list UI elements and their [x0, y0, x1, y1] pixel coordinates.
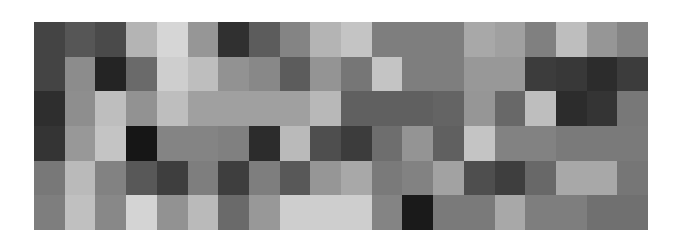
heatmap-cell: [341, 22, 372, 57]
heatmap-cell: [617, 195, 648, 230]
heatmap-cell: [525, 195, 556, 230]
heatmap-cell: [525, 126, 556, 161]
heatmap-cell: [95, 126, 126, 161]
heatmap-cell: [157, 126, 188, 161]
heatmap-cell: [65, 195, 96, 230]
heatmap-cell: [280, 57, 311, 92]
heatmap-cell: [126, 126, 157, 161]
heatmap-cell: [433, 22, 464, 57]
heatmap-cell: [188, 91, 219, 126]
heatmap-cell: [341, 91, 372, 126]
heatmap-cell: [310, 22, 341, 57]
heatmap-cell: [372, 126, 403, 161]
heatmap-figure: [0, 0, 681, 249]
heatmap-cell: [218, 126, 249, 161]
heatmap-cell: [556, 22, 587, 57]
heatmap-cell: [280, 195, 311, 230]
heatmap-cell: [556, 91, 587, 126]
heatmap-cell: [95, 57, 126, 92]
heatmap-cell: [34, 22, 65, 57]
heatmap-cell: [402, 195, 433, 230]
heatmap-cell: [617, 91, 648, 126]
heatmap-cell: [525, 57, 556, 92]
heatmap-cell: [402, 91, 433, 126]
heatmap-cell: [310, 161, 341, 196]
heatmap-cell: [433, 91, 464, 126]
heatmap-cell: [249, 91, 280, 126]
heatmap-cell: [402, 161, 433, 196]
heatmap-cell: [525, 22, 556, 57]
heatmap-cell: [249, 57, 280, 92]
heatmap-cell: [402, 57, 433, 92]
heatmap-cell: [310, 195, 341, 230]
heatmap-cell: [495, 57, 526, 92]
heatmap-cell: [126, 161, 157, 196]
heatmap-cell: [464, 161, 495, 196]
heatmap-cell: [587, 22, 618, 57]
heatmap-cell: [372, 91, 403, 126]
heatmap-cell: [157, 22, 188, 57]
heatmap-cell: [464, 57, 495, 92]
heatmap-cell: [495, 126, 526, 161]
heatmap-cell: [556, 57, 587, 92]
heatmap-cell: [310, 57, 341, 92]
heatmap-cell: [372, 195, 403, 230]
heatmap-cell: [402, 22, 433, 57]
heatmap-cell: [341, 161, 372, 196]
heatmap-cell: [95, 91, 126, 126]
heatmap-cell: [310, 126, 341, 161]
heatmap-cell: [495, 195, 526, 230]
heatmap-cell: [188, 22, 219, 57]
heatmap-cell: [249, 22, 280, 57]
heatmap-cell: [310, 91, 341, 126]
heatmap-cell: [341, 57, 372, 92]
heatmap-cell: [34, 195, 65, 230]
heatmap-cell: [556, 195, 587, 230]
heatmap-cell: [157, 195, 188, 230]
heatmap-cell: [126, 57, 157, 92]
heatmap-cell: [433, 126, 464, 161]
heatmap-cell: [188, 57, 219, 92]
heatmap-cell: [218, 57, 249, 92]
heatmap-cell: [249, 161, 280, 196]
heatmap-cell: [433, 195, 464, 230]
heatmap-cell: [617, 126, 648, 161]
heatmap-cell: [617, 57, 648, 92]
heatmap-cell: [402, 126, 433, 161]
heatmap-cell: [617, 22, 648, 57]
heatmap-cell: [525, 91, 556, 126]
heatmap-cell: [587, 195, 618, 230]
heatmap-cell: [157, 91, 188, 126]
heatmap-cell: [157, 57, 188, 92]
heatmap-cell: [218, 91, 249, 126]
heatmap-cell: [34, 57, 65, 92]
heatmap-cell: [65, 57, 96, 92]
heatmap-cell: [280, 126, 311, 161]
heatmap-cell: [525, 161, 556, 196]
heatmap-cell: [556, 161, 587, 196]
heatmap-cell: [157, 161, 188, 196]
heatmap-cell: [341, 195, 372, 230]
heatmap-cell: [188, 126, 219, 161]
heatmap-cell: [372, 161, 403, 196]
heatmap-cell: [65, 161, 96, 196]
heatmap-cell: [65, 22, 96, 57]
heatmap-cell: [587, 57, 618, 92]
heatmap-cell: [587, 126, 618, 161]
heatmap-cell: [188, 161, 219, 196]
heatmap-cell: [65, 126, 96, 161]
heatmap-cell: [95, 22, 126, 57]
heatmap-cell: [433, 57, 464, 92]
heatmap-cell: [495, 91, 526, 126]
heatmap-cell: [280, 91, 311, 126]
heatmap-cell: [218, 195, 249, 230]
heatmap-cell: [556, 126, 587, 161]
heatmap-cell: [372, 57, 403, 92]
heatmap-cell: [188, 195, 219, 230]
heatmap-cell: [495, 22, 526, 57]
heatmap-cell: [218, 161, 249, 196]
heatmap-cell: [617, 161, 648, 196]
heatmap-cell: [65, 91, 96, 126]
heatmap-cell: [218, 22, 249, 57]
heatmap-cell: [372, 22, 403, 57]
